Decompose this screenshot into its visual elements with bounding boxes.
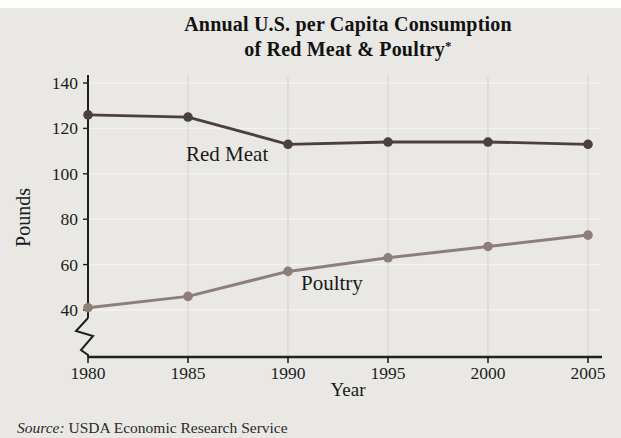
red-meat-point-1995 bbox=[383, 137, 393, 147]
y-tick-label: 40 bbox=[61, 300, 79, 320]
y-axis-title: Pounds bbox=[12, 158, 35, 278]
red-meat-point-1990 bbox=[283, 139, 293, 149]
chart-title: Annual U.S. per Capita Consumption of Re… bbox=[98, 13, 598, 60]
chart-figure: 198019851990199520002005406080100120140 … bbox=[0, 0, 621, 438]
x-tick-label: 1985 bbox=[171, 363, 206, 383]
x-tick-label: 2000 bbox=[471, 363, 506, 383]
y-axis-break bbox=[76, 318, 93, 357]
x-tick-label: 1980 bbox=[71, 363, 106, 383]
chart-title-line1: Annual U.S. per Capita Consumption bbox=[98, 13, 598, 35]
source-text: USDA Economic Research Service bbox=[69, 419, 288, 436]
poultry-point-1990 bbox=[283, 267, 293, 277]
poultry-point-1995 bbox=[383, 253, 393, 263]
poultry-series-label: Poultry bbox=[301, 271, 363, 296]
red-meat-point-1985 bbox=[183, 112, 193, 122]
red-meat-point-1980 bbox=[83, 110, 93, 120]
source-note: Source: USDA Economic Research Service bbox=[17, 419, 288, 437]
poultry-point-2000 bbox=[483, 242, 493, 252]
x-axis-title: Year bbox=[288, 379, 408, 401]
y-tick-label: 100 bbox=[52, 164, 79, 184]
poultry-point-2005 bbox=[583, 230, 593, 240]
chart-title-line2: of Red Meat & Poultry* bbox=[98, 35, 598, 60]
poultry-point-1985 bbox=[183, 292, 193, 302]
x-tick-label: 2005 bbox=[571, 363, 606, 383]
footnote-asterisk: * bbox=[445, 38, 452, 53]
source-label: Source: bbox=[17, 419, 65, 436]
poultry-point-1980 bbox=[83, 303, 93, 313]
red-meat-line bbox=[88, 115, 588, 145]
red-meat-point-2000 bbox=[483, 137, 493, 147]
y-tick-label: 120 bbox=[52, 118, 79, 138]
y-tick-label: 80 bbox=[61, 209, 79, 229]
red-meat-series-label: Red Meat bbox=[186, 142, 268, 167]
y-tick-label: 60 bbox=[61, 255, 79, 275]
red-meat-point-2005 bbox=[583, 139, 593, 149]
y-tick-label: 140 bbox=[52, 73, 79, 93]
line-chart: 198019851990199520002005406080100120140 bbox=[0, 0, 621, 438]
